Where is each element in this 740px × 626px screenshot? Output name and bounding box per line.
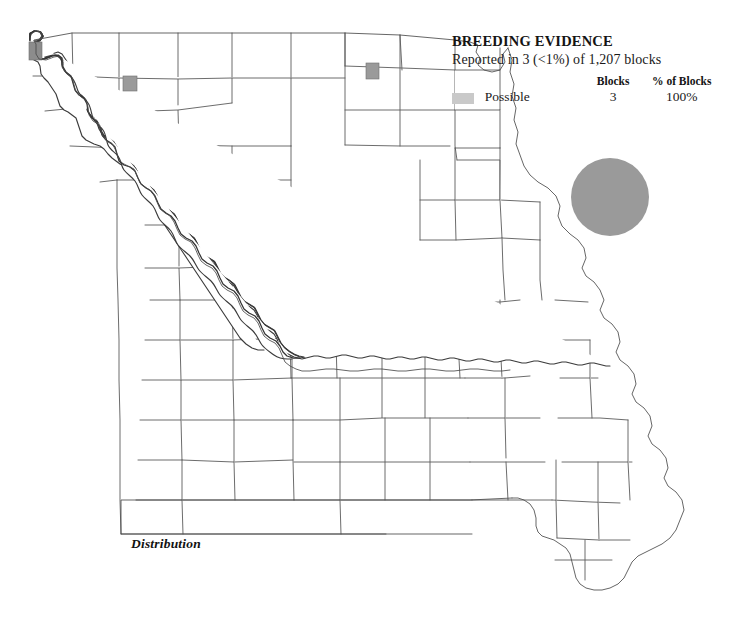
legend-percent-value: 100%	[641, 88, 722, 105]
legend-header-blocks: Blocks	[585, 75, 642, 88]
legend-table: Blocks % of Blocks Possible 3 100%	[452, 75, 722, 105]
legend-blocks-value: 3	[585, 88, 642, 105]
map-figure-page: BREEDING EVIDENCE Reported in 3 (<1%) of…	[0, 0, 740, 626]
species-symbol-circle	[571, 158, 649, 236]
legend-header-category	[485, 75, 585, 88]
distribution-caption: Distribution	[131, 536, 201, 552]
legend-subtitle: Reported in 3 (<1%) of 1,207 blocks	[452, 52, 722, 68]
legend-category-label: Possible	[485, 88, 585, 105]
legend-swatch-cell	[452, 88, 485, 105]
legend-row-possible: Possible 3 100%	[452, 88, 722, 105]
legend-title: BREEDING EVIDENCE	[452, 34, 722, 49]
legend-header-percent: % of Blocks	[641, 75, 722, 88]
breeding-evidence-legend: BREEDING EVIDENCE Reported in 3 (<1%) of…	[452, 34, 722, 105]
legend-header-row: Blocks % of Blocks	[452, 75, 722, 88]
legend-color-swatch	[452, 93, 474, 104]
legend-header-swatch	[452, 75, 485, 88]
